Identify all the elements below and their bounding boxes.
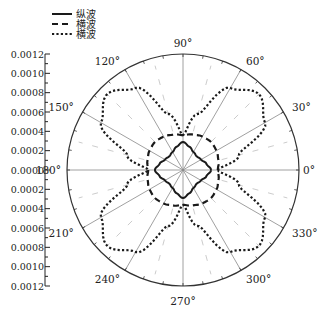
scale-tick-label: 0.0002: [11, 184, 44, 195]
outer-tick: [69, 190, 72, 191]
minor-grid-line: [155, 66, 173, 132]
scale-tick-label: 0.0006: [11, 107, 44, 118]
outer-tick: [94, 95, 96, 97]
scale-tick-label: 0.0008: [11, 87, 44, 98]
outer-tick: [222, 276, 223, 279]
outer-tick: [69, 150, 72, 151]
scale-tick-label: 0.0006: [11, 223, 44, 234]
outer-tick: [94, 243, 96, 245]
outer-tick: [83, 112, 86, 114]
polar-grid: [67, 54, 299, 286]
scale-tick-label: 0.0010: [11, 261, 44, 272]
outer-tick: [281, 227, 284, 229]
minor-grid-line: [222, 180, 288, 198]
angle-label: 0°: [303, 164, 315, 176]
outer-tick: [163, 56, 164, 59]
outer-tick: [108, 257, 110, 259]
minor-grid-line: [193, 66, 211, 132]
angle-label: 240°: [95, 273, 120, 285]
angle-label: 270°: [170, 295, 195, 307]
angle-label: 90°: [174, 37, 193, 49]
outer-tick: [83, 227, 86, 229]
minor-grid-line: [193, 209, 211, 275]
minor-grid-line: [107, 198, 155, 246]
angle-label: 150°: [49, 101, 74, 113]
outer-tick: [281, 112, 284, 114]
outer-tick: [74, 130, 77, 131]
minor-grid-line: [79, 142, 145, 160]
outer-tick: [203, 281, 204, 284]
angle-label: 60°: [246, 55, 265, 67]
scale-tick-label: 0.0004: [11, 126, 44, 137]
minor-grid-line: [155, 209, 173, 275]
scale-tick-label: 0.0008: [11, 242, 44, 253]
outer-tick: [125, 70, 127, 73]
grid-spoke: [83, 170, 183, 228]
angle-label: 210°: [49, 227, 74, 239]
scale-tick-label: 0.0004: [11, 203, 44, 214]
outer-tick: [270, 243, 272, 245]
minor-grid-line: [211, 198, 259, 246]
angle-label: 30°: [292, 101, 311, 113]
angle-label: 300°: [246, 273, 271, 285]
outer-tick: [125, 268, 127, 271]
outer-tick: [294, 150, 297, 151]
outer-tick: [256, 257, 258, 259]
angle-label: 120°: [95, 55, 120, 67]
outer-tick: [240, 70, 242, 73]
outer-tick: [289, 209, 292, 210]
scale-tick-label: 0.0010: [11, 68, 44, 79]
angle-labels: 0°30°60°90°120°150°180°210°240°270°300°3…: [36, 37, 318, 307]
outer-tick: [289, 130, 292, 131]
minor-grid-line: [211, 94, 259, 142]
outer-tick: [163, 281, 164, 284]
grid-spoke: [83, 112, 183, 170]
angle-label: 330°: [292, 227, 317, 239]
outer-tick: [143, 61, 144, 64]
outer-tick: [143, 276, 144, 279]
outer-tick: [256, 81, 258, 83]
scale-tick-label: 0.0012: [11, 49, 44, 60]
outer-tick: [74, 209, 77, 210]
minor-grid-line: [107, 94, 155, 142]
legend: 纵波横波横波: [52, 8, 96, 40]
outer-tick: [294, 190, 297, 191]
scale-tick-label: 0.0002: [11, 145, 44, 156]
scale-tick-label: 0.0012: [11, 281, 44, 292]
minor-grid-line: [79, 180, 145, 198]
angle-label: 180°: [36, 164, 61, 176]
outer-tick: [108, 81, 110, 83]
outer-tick: [240, 268, 242, 271]
legend-label: 横波: [76, 28, 96, 40]
minor-grid-line: [222, 142, 288, 160]
outer-tick: [203, 56, 204, 59]
outer-tick: [222, 61, 223, 64]
outer-tick: [270, 95, 272, 97]
polar-chart: 纵波横波横波 0.00120.00100.00080.00060.00040.0…: [0, 0, 321, 312]
